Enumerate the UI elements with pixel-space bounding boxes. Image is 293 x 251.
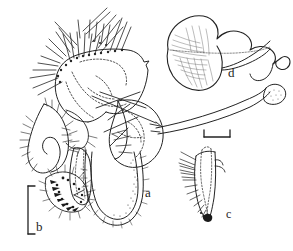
panel-label-d: d bbox=[228, 66, 235, 79]
panel-label-a: a bbox=[145, 186, 151, 199]
panel-label-c: c bbox=[226, 208, 231, 221]
panel-label-b: b bbox=[36, 220, 43, 233]
figure-plate: a b c d bbox=[0, 0, 293, 251]
illustration-canvas bbox=[0, 0, 293, 251]
